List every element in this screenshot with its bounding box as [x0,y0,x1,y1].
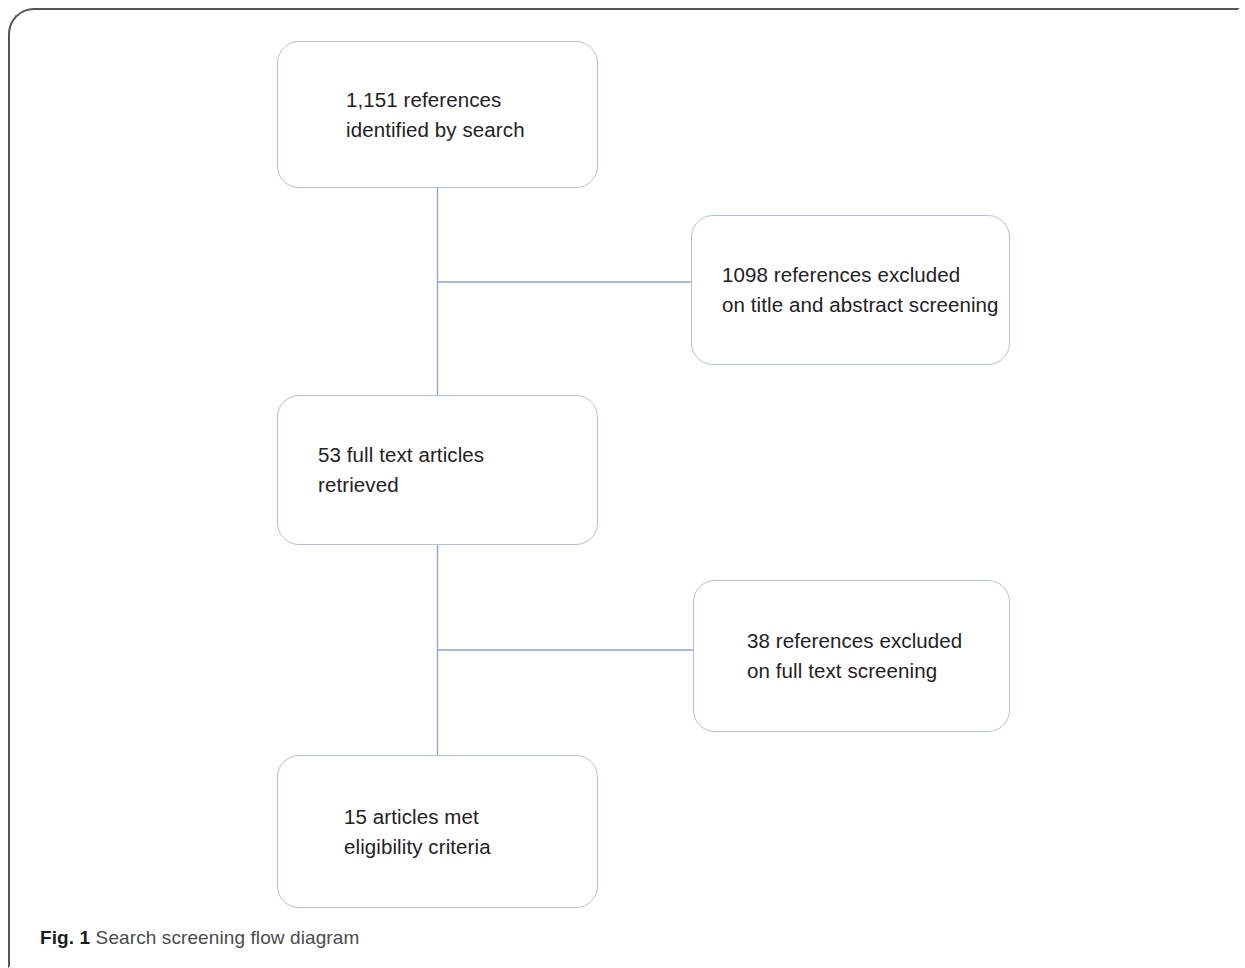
node-fulltext-retrieved: 53 full text articles retrieved [277,395,598,545]
figure-canvas: 1,151 references identified by search 10… [10,10,1245,918]
node-references-identified: 1,151 references identified by search [277,41,598,188]
node-excluded-fulltext-label: 38 references excluded on full text scre… [694,626,962,685]
figure-caption-label: Fig. 1 [40,927,96,948]
figure-caption: Fig. 1 Search screening flow diagram [40,927,359,949]
node-references-identified-label: 1,151 references identified by search [278,85,525,144]
node-articles-eligible-label: 15 articles met eligibility criteria [278,802,491,861]
flow-connectors [10,10,1245,918]
node-excluded-title-abstract-label: 1098 references excluded on title and ab… [692,260,999,319]
figure-caption-text: Search screening flow diagram [96,927,360,948]
node-excluded-fulltext: 38 references excluded on full text scre… [693,580,1010,732]
page-frame: 1,151 references identified by search 10… [8,8,1240,968]
node-articles-eligible: 15 articles met eligibility criteria [277,755,598,908]
node-excluded-title-abstract: 1098 references excluded on title and ab… [691,215,1010,365]
node-fulltext-retrieved-label: 53 full text articles retrieved [278,440,484,499]
